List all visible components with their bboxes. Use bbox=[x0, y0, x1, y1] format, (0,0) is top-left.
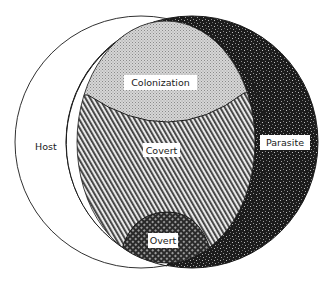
host-parasite-diagram: Host Colonization Covert Parasite Overt bbox=[0, 0, 335, 285]
overt-label: Overt bbox=[150, 235, 177, 246]
colonization-label: Colonization bbox=[131, 77, 190, 88]
host-label: Host bbox=[35, 141, 57, 152]
parasite-label: Parasite bbox=[266, 137, 304, 148]
covert-label: Covert bbox=[146, 145, 178, 156]
